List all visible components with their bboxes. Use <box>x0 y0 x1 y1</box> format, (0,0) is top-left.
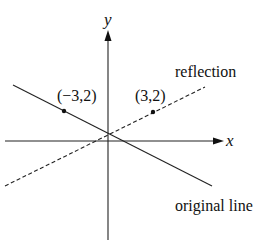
point-right-label: (3,2) <box>135 87 166 105</box>
point-left <box>62 109 66 113</box>
reflection-label: reflection <box>175 63 236 80</box>
reflection-line <box>5 87 205 186</box>
original-line <box>13 85 212 186</box>
x-axis-label: x <box>225 131 234 150</box>
point-left-label: (−3,2) <box>57 87 97 105</box>
point-right <box>151 110 155 114</box>
x-axis <box>5 138 224 145</box>
y-axis-label: y <box>102 10 112 29</box>
x-axis-arrow-icon <box>213 138 224 145</box>
y-axis-arrow-icon <box>105 30 112 41</box>
diagram-canvas: y x (−3,2) (3,2) reflection original lin… <box>0 0 264 240</box>
original-line-label: original line <box>175 197 253 215</box>
